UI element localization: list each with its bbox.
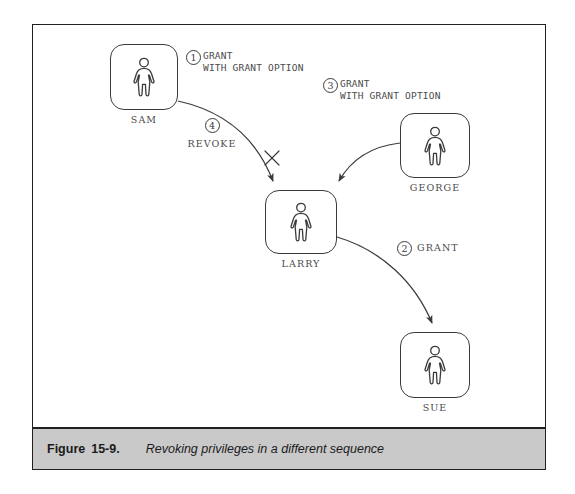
person-icon xyxy=(422,126,448,166)
node-george-label: GEORGE xyxy=(410,182,461,193)
caption-figure-word: Figure xyxy=(47,442,85,456)
node-sue-label: SUE xyxy=(423,402,448,413)
step-badge-2: 2 xyxy=(397,241,412,256)
node-larry[interactable]: LARRY xyxy=(265,190,337,254)
edge-label-3-text: GRANT WITH GRANT OPTION xyxy=(338,78,441,101)
node-sam-label: SAM xyxy=(131,114,157,125)
edge-label-3: 3 GRANT WITH GRANT OPTION xyxy=(323,78,441,101)
edge-label-1-text: GRANT WITH GRANT OPTION xyxy=(201,50,304,73)
edge-label-2-text: GRANT xyxy=(412,241,459,254)
caption-figure-number: Figure15-9. xyxy=(33,442,120,456)
node-sue[interactable]: SUE xyxy=(400,332,470,398)
edge-label-1-line2: WITH GRANT OPTION xyxy=(203,62,304,74)
person-icon xyxy=(288,202,314,242)
edge-label-3-line2: WITH GRANT OPTION xyxy=(340,90,441,102)
edge-label-4-text: REVOKE xyxy=(186,138,238,149)
step-badge-4: 4 xyxy=(205,118,220,133)
person-icon xyxy=(131,57,157,97)
edge-label-1-line1: GRANT xyxy=(203,50,233,61)
caption-figure-id: 15-9. xyxy=(91,442,120,456)
edge-label-2: 2 GRANT xyxy=(397,241,459,256)
step-badge-3: 3 xyxy=(323,78,338,93)
caption-title: Revoking privileges in a different seque… xyxy=(120,442,384,456)
edge-label-2-line1: GRANT xyxy=(417,242,459,253)
step-badge-1: 1 xyxy=(186,50,201,65)
node-george[interactable]: GEORGE xyxy=(400,113,470,178)
edge-label-4: 4 REVOKE xyxy=(186,118,238,149)
node-larry-label: LARRY xyxy=(282,258,321,269)
figure-container: SAM GEORGE LARRY SUE 1 GRANT WITH GR xyxy=(0,0,575,494)
edge-label-1: 1 GRANT WITH GRANT OPTION xyxy=(186,50,304,73)
person-icon xyxy=(422,345,448,385)
figure-caption: Figure15-9. Revoking privileges in a dif… xyxy=(32,427,546,470)
node-sam[interactable]: SAM xyxy=(110,44,178,110)
edge-label-3-line1: GRANT xyxy=(340,78,370,89)
